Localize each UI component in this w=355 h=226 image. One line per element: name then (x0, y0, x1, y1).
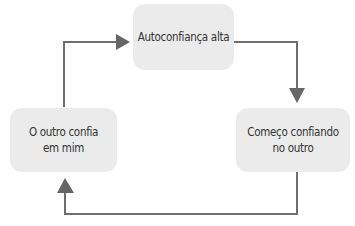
arrowhead-up-icon (57, 178, 74, 193)
arrow-right-to-left (65, 172, 297, 214)
arrow-top-to-right (234, 42, 297, 90)
arrowhead-down-icon (289, 88, 305, 103)
node-outro-confia: O outro confia em mim (10, 108, 117, 172)
node-comeco-confiando: Começo confiando no outro (236, 108, 350, 172)
node-autoconfianca-alta: Autoconfiança alta (133, 4, 234, 70)
node-label: Começo confiando no outro (247, 124, 338, 156)
arrow-left-to-top (64, 42, 118, 107)
node-label: Autoconfiança alta (138, 29, 230, 45)
node-label: O outro confia em mim (29, 124, 98, 156)
arrowhead-right-icon (116, 34, 130, 50)
